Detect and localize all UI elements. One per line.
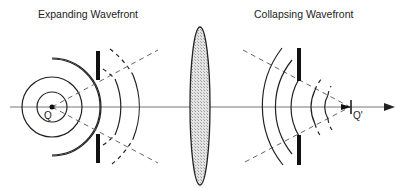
source-point-q xyxy=(50,105,55,110)
image-point-label: Q' xyxy=(353,110,363,121)
source-point-label: Q xyxy=(44,110,52,121)
wavefront-diagram: Q Q' xyxy=(0,0,405,190)
left-aperture-top-bar xyxy=(96,51,100,80)
right-aperture-bottom-bar xyxy=(297,135,301,165)
right-dashed-wavefronts xyxy=(315,78,332,138)
right-marginal-rays xyxy=(243,50,350,162)
lens xyxy=(190,27,210,185)
image-point-q-prime xyxy=(341,100,351,114)
right-aperture-top-bar xyxy=(297,48,301,81)
axis-arrowhead-icon xyxy=(384,103,395,111)
left-aperture-bottom-bar xyxy=(96,134,100,163)
